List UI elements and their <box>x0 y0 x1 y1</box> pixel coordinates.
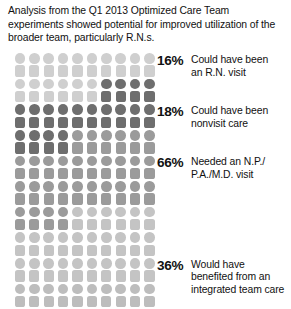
person-body-icon <box>144 142 154 153</box>
person-head-icon <box>101 284 112 295</box>
person-head-icon <box>115 284 126 295</box>
person-icon <box>42 103 56 129</box>
person-head-icon <box>87 181 98 192</box>
person-icon <box>114 231 128 257</box>
person-body-icon <box>101 270 111 281</box>
person-head-icon <box>87 207 98 218</box>
person-head-icon <box>15 232 26 243</box>
person-icon <box>128 206 142 232</box>
person-body-icon <box>44 245 54 256</box>
pictogram-row <box>13 78 157 104</box>
person-icon <box>42 206 56 232</box>
person-body-icon <box>101 117 111 128</box>
person-icon <box>71 231 85 257</box>
person-icon <box>99 103 113 129</box>
legend-item: 36%Would havebenefited from anintegrated… <box>157 259 291 297</box>
person-body-icon <box>116 91 126 102</box>
person-head-icon <box>101 130 112 141</box>
person-icon <box>56 231 70 257</box>
person-head-icon <box>29 207 40 218</box>
infographic-root: Analysis from the Q1 2013 Optimized Care… <box>0 0 291 309</box>
person-icon <box>27 52 41 78</box>
person-icon <box>85 52 99 78</box>
person-icon <box>128 52 142 78</box>
person-body-icon <box>144 193 154 204</box>
person-body-icon <box>29 168 39 179</box>
person-head-icon <box>144 79 155 90</box>
person-icon <box>143 282 157 308</box>
person-icon <box>42 282 56 308</box>
person-head-icon <box>144 284 155 295</box>
person-body-icon <box>29 270 39 281</box>
person-head-icon <box>15 53 26 64</box>
pictogram-row <box>13 282 157 308</box>
person-body-icon <box>101 168 111 179</box>
person-head-icon <box>15 258 26 269</box>
person-icon <box>56 52 70 78</box>
person-icon <box>13 282 27 308</box>
legend-label: Would havebenefited from anintegrated te… <box>191 259 291 297</box>
person-head-icon <box>29 232 40 243</box>
person-head-icon <box>58 156 69 167</box>
person-body-icon <box>130 296 140 307</box>
person-icon <box>114 154 128 180</box>
person-body-icon <box>144 168 154 179</box>
person-icon <box>85 206 99 232</box>
pictogram-chart: 16%Could have beenan R.N. visit18%Could … <box>0 52 291 309</box>
person-body-icon <box>72 219 82 230</box>
person-icon <box>128 129 142 155</box>
person-icon <box>71 78 85 104</box>
person-head-icon <box>43 207 54 218</box>
person-head-icon <box>101 258 112 269</box>
person-body-icon <box>44 193 54 204</box>
person-body-icon <box>44 91 54 102</box>
person-icon <box>71 180 85 206</box>
person-head-icon <box>29 284 40 295</box>
person-head-icon <box>101 104 112 115</box>
person-body-icon <box>101 296 111 307</box>
person-head-icon <box>87 156 98 167</box>
person-head-icon <box>130 79 141 90</box>
person-head-icon <box>15 181 26 192</box>
person-icon <box>27 206 41 232</box>
legend-label-line: Could have been <box>191 54 291 67</box>
person-body-icon <box>130 219 140 230</box>
person-body-icon <box>101 65 111 76</box>
person-icon <box>13 257 27 283</box>
person-head-icon <box>15 156 26 167</box>
person-head-icon <box>29 130 40 141</box>
person-head-icon <box>58 104 69 115</box>
person-body-icon <box>130 117 140 128</box>
person-head-icon <box>130 130 141 141</box>
person-body-icon <box>116 142 126 153</box>
person-head-icon <box>144 258 155 269</box>
person-body-icon <box>116 270 126 281</box>
person-icon <box>85 231 99 257</box>
person-icon <box>42 257 56 283</box>
person-head-icon <box>101 207 112 218</box>
person-head-icon <box>43 258 54 269</box>
person-head-icon <box>58 284 69 295</box>
person-body-icon <box>101 91 111 102</box>
person-body-icon <box>116 245 126 256</box>
person-body-icon <box>72 245 82 256</box>
person-icon <box>56 78 70 104</box>
person-icon <box>13 52 27 78</box>
person-body-icon <box>44 142 54 153</box>
person-icon <box>27 154 41 180</box>
person-body-icon <box>58 296 68 307</box>
person-icon <box>85 78 99 104</box>
person-icon <box>13 206 27 232</box>
person-icon <box>143 103 157 129</box>
legend-label: Could have beennonvisit care <box>191 105 291 130</box>
pictogram-row <box>13 52 157 78</box>
person-icon <box>71 206 85 232</box>
person-icon <box>128 257 142 283</box>
person-body-icon <box>44 117 54 128</box>
person-icon <box>128 154 142 180</box>
person-head-icon <box>101 232 112 243</box>
person-icon <box>13 231 27 257</box>
legend-percent: 66% <box>157 156 191 169</box>
person-head-icon <box>58 258 69 269</box>
person-body-icon <box>87 65 97 76</box>
